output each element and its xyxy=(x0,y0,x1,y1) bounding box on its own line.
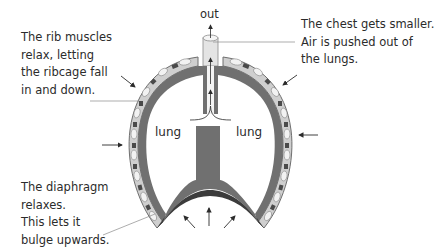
diaphragm-annotation: The diaphragm relaxes. This lets it bulg… xyxy=(21,179,109,249)
lung-label-right: lung xyxy=(236,125,262,139)
annotation-line: The diaphragm xyxy=(21,179,109,197)
chest-annotation: The chest gets smaller. Air is pushed ou… xyxy=(301,16,434,69)
annotation-line: The rib muscles xyxy=(21,29,112,47)
annotation-line: relaxes. xyxy=(21,197,109,215)
diaphragm xyxy=(157,126,264,228)
rib-muscles-annotation: The rib muscles relax, letting the ribca… xyxy=(21,29,112,99)
lung-label-left: lung xyxy=(155,125,181,139)
annotation-line: in and down. xyxy=(21,82,112,100)
annotation-line: bulge upwards. xyxy=(21,232,109,250)
annotation-line: the lungs. xyxy=(301,51,434,69)
annotation-line: Air is pushed out of xyxy=(301,34,434,52)
annotation-line: relax, letting xyxy=(21,47,112,65)
annotation-line: This lets it xyxy=(21,214,109,232)
annotation-line: the ribcage fall xyxy=(21,64,112,82)
out-label: out xyxy=(200,7,219,21)
annotation-line: The chest gets smaller. xyxy=(301,16,434,34)
